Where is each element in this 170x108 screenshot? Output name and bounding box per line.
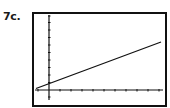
graph-plot <box>0 0 170 108</box>
plotted-line <box>36 42 161 89</box>
